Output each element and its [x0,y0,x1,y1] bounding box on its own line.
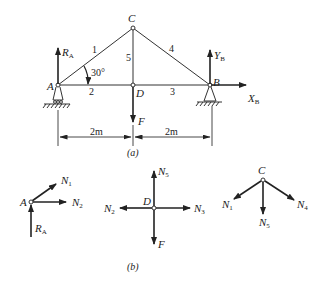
dimension-lines [58,106,212,146]
fbd-node-C [234,181,294,214]
force-label-F: F [138,116,145,127]
truss-diagram: C A B D 1 2 3 4 5 30° RA YB XB F 2m 2m (… [0,0,322,289]
node-label-B: B [213,77,220,88]
force-label-XB: XB [248,93,259,106]
fbd-D-N3-label: N3 [194,203,205,216]
fbd-A-N2-label: N2 [72,197,83,210]
joint-D [131,83,135,87]
member-label-5: 5 [126,53,131,63]
node-label-D: D [136,88,144,99]
member-label-1: 1 [92,45,97,55]
fbd-A-N1-arrow [32,184,56,201]
support-B [196,87,222,106]
fbd-C-N1-label: N1 [222,199,233,212]
member-label-4: 4 [169,44,174,54]
force-label-RA: RA [62,47,74,60]
member-label-2: 2 [89,87,94,97]
dimension-label-left: 2m [90,127,103,137]
fbd-A-N1-label: N1 [61,175,72,188]
member-4 [133,28,210,85]
force-label-YB: YB [214,50,225,63]
node-label-A: A [47,81,54,92]
angle-arc [84,66,88,84]
fbd-D-F-label: F [158,239,165,250]
joints [56,26,212,87]
caption-b: (b) [127,262,139,272]
angle-label: 30° [91,68,105,78]
fbd-C-label: C [258,165,265,176]
joint-C [131,26,135,30]
fbd-C-N1-arrow [234,181,261,199]
fbd-C-N5-label: N5 [259,217,270,230]
truss-members [58,28,210,85]
fbd-A-label: A [20,197,27,208]
dimension-label-right: 2m [165,127,178,137]
fbd-D-N2-label: N2 [104,203,115,216]
fbd-C-N4-arrow [265,181,294,200]
fbd-D-label: D [143,196,151,207]
fbd-A-RA-label: RA [35,223,47,236]
fbd-D-N5-label: N5 [158,166,169,179]
member-label-3: 3 [170,87,175,97]
caption-a: (a) [127,148,139,158]
fbd-C-N4-label: N4 [297,199,308,212]
node-label-C: C [128,13,135,24]
